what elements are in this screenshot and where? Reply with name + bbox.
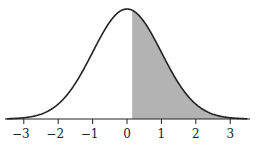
x-tick-label: 0 xyxy=(123,127,131,141)
x-tick-label: −2 xyxy=(46,127,64,141)
x-tick-label: 3 xyxy=(226,127,234,141)
x-tick-label: −3 xyxy=(12,127,30,141)
density-curve xyxy=(7,9,248,119)
x-tick-label: −1 xyxy=(81,127,99,141)
x-tick-label: 1 xyxy=(158,127,166,141)
x-axis-ticks: −3−2−10123 xyxy=(12,119,234,141)
chart-svg: −3−2−10123 xyxy=(0,0,259,150)
normal-distribution-chart: −3−2−10123 xyxy=(0,0,259,150)
shaded-area xyxy=(132,10,247,119)
x-tick-label: 2 xyxy=(192,127,200,141)
